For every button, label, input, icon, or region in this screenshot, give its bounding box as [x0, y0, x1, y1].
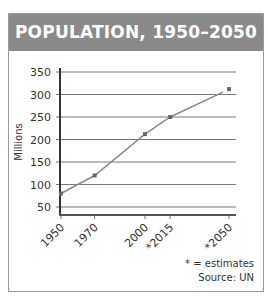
y-tick-label: 350: [30, 66, 51, 79]
y-axis-label: Millions: [13, 123, 24, 160]
x-axis-ticks: 195019702000*2015*2050: [38, 215, 235, 254]
data-point: [227, 87, 231, 91]
estimates-note: * = estimates: [185, 258, 254, 269]
x-tick-label: 1950: [38, 221, 67, 250]
y-tick-label: 50: [37, 201, 51, 214]
x-tick-label: *2015: [143, 221, 176, 254]
y-tick-label: 150: [30, 156, 51, 169]
y-tick-label: 100: [30, 179, 51, 192]
data-point: [59, 192, 63, 196]
data-point: [143, 132, 147, 136]
population-line: [61, 92, 223, 193]
x-tick-label: *2050: [202, 221, 235, 254]
data-point: [93, 174, 97, 178]
y-tick-label: 300: [30, 89, 51, 102]
data-markers: [59, 87, 231, 195]
line-chart: 50100150200250300350 195019702000*2015*2…: [0, 0, 268, 300]
y-tick-label: 250: [30, 111, 51, 124]
gridlines: [56, 72, 236, 207]
source-note: Source: UN: [198, 272, 254, 283]
data-point: [168, 115, 172, 119]
y-tick-label: 200: [30, 134, 51, 147]
y-axis-ticks: 50100150200250300350: [30, 66, 51, 214]
x-tick-label: 1970: [72, 221, 101, 250]
